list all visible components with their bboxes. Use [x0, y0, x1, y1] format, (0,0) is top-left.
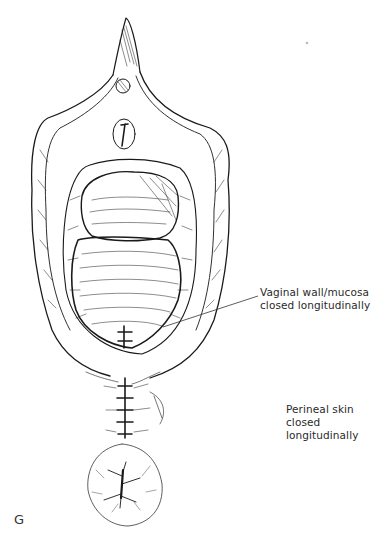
vaginal-wall-upper	[81, 172, 178, 241]
surgical-illustration	[0, 0, 376, 545]
anus	[88, 444, 162, 526]
label-perineal-line-1: Perineal skin closed	[286, 403, 376, 429]
label-vaginal-wall: Vaginal wall/mucosa closed longitudinall…	[260, 286, 375, 312]
speck	[306, 42, 309, 45]
label-perineal-line-2: longitudinally	[286, 429, 376, 442]
panel-letter: G	[14, 512, 24, 527]
label-vaginal-line-2: closed longitudinally	[260, 299, 375, 312]
clitoral-hood	[113, 18, 140, 93]
urethra	[113, 119, 135, 149]
label-vaginal-line-1: Vaginal wall/mucosa	[260, 286, 375, 299]
label-perineal-skin: Perineal skin closed longitudinally	[286, 403, 376, 442]
perineum-sutures	[86, 372, 164, 438]
